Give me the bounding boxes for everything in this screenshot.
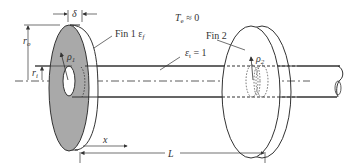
L-label: L (167, 148, 174, 159)
outer-radius-label: ro (23, 35, 31, 48)
x-label: x (102, 134, 108, 145)
fin-1-bore (63, 66, 75, 96)
fin1-label: Fin 1 εf (115, 28, 146, 41)
fin-2-face (222, 26, 280, 158)
fin-diagram: δ ro ri Fin 1 εf Fin 2 ρ1 ρ2 Te ≈ 0 εt =… (0, 0, 355, 167)
fin-1 (49, 25, 98, 151)
env-temp-label: Te ≈ 0 (175, 12, 199, 25)
rod-emissivity-leader (160, 57, 180, 70)
fin1-leader (94, 36, 112, 48)
fin2-label: Fin 2 (206, 30, 227, 41)
rod-emissivity-label: εt = 1 (185, 47, 207, 60)
inner-radius-label: ri (32, 67, 38, 80)
fin-2 (98, 26, 340, 158)
delta-label: δ (72, 8, 77, 19)
rod-break-end (337, 66, 343, 97)
